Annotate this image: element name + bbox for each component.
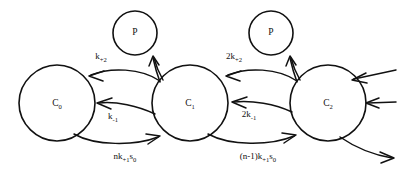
- rate-label-k-plus-2: k+2: [95, 51, 107, 62]
- rate-label-two-k-plus-2: 2k+2: [226, 51, 242, 62]
- scheme-canvas: C0 C1 C2 P P: [0, 0, 398, 183]
- rate-label-n-k-plus-1-s0: nk+1s0: [114, 151, 138, 162]
- node-c1[interactable]: C1: [152, 65, 228, 141]
- node-p-right-label: P: [268, 27, 273, 37]
- node-c2-subscript: 2: [330, 102, 333, 109]
- rate-label-two-k-minus-1-sub: -1: [251, 113, 257, 120]
- inflow-arrow-upper-path: [354, 70, 396, 79]
- rate-label-n-k-plus-1-s0-postsub: 0: [133, 155, 137, 162]
- node-c0[interactable]: C0: [19, 65, 95, 141]
- rate-label-n-1-k-plus-1-s0-sub: +1: [262, 155, 269, 162]
- node-p-right[interactable]: P: [249, 11, 293, 55]
- edge-c1-to-c0-mid-arrowhead: [97, 98, 112, 109]
- reaction-scheme-diagram: C0 C1 C2 P P: [0, 0, 398, 183]
- node-c1-subscript: 1: [192, 102, 195, 109]
- edge-c0-to-c1-bottom-path: [74, 134, 158, 143]
- rate-label-n-1-k-plus-1-s0-postsub: 0: [273, 155, 277, 162]
- inflow-arrow-lower[interactable]: [366, 98, 396, 108]
- rate-label-n-1-k-plus-1-s0-pre: (n-1): [240, 151, 258, 161]
- inflow-arrow-lower-path: [368, 102, 396, 103]
- node-c2[interactable]: C2: [290, 65, 366, 141]
- inflow-arrow-upper[interactable]: [352, 70, 396, 83]
- rate-label-two-k-plus-2-sub: +2: [235, 55, 242, 62]
- edge-c1-to-c2-bottom[interactable]: [208, 133, 296, 143]
- outflow-arrow-path: [340, 137, 392, 158]
- outflow-arrow[interactable]: [340, 137, 394, 163]
- rate-label-two-k-minus-1: 2k-1: [242, 109, 257, 120]
- edge-c0-to-c1-bottom[interactable]: [74, 134, 160, 144]
- rate-label-n-1-k-plus-1-s0: (n-1)k+1s0: [240, 151, 277, 162]
- edge-c1-to-c2-bottom-path: [208, 134, 294, 143]
- edge-c1-to-c0-mid[interactable]: [97, 98, 155, 114]
- rate-label-k-minus-1-sub: -1: [113, 115, 119, 122]
- edge-c2-to-c1-mid-arrowhead: [232, 97, 247, 108]
- node-p-left-label: P: [132, 27, 137, 37]
- rate-label-n-k-plus-1-s0-sub: +1: [123, 155, 130, 162]
- edge-c2-to-c1-top[interactable]: [226, 70, 297, 81]
- rate-label-k-minus-1: k-1: [108, 111, 118, 122]
- edge-c1-to-c0-top[interactable]: [89, 70, 160, 81]
- node-p-left[interactable]: P: [113, 11, 157, 55]
- rate-label-k-plus-2-sub: +2: [100, 55, 107, 62]
